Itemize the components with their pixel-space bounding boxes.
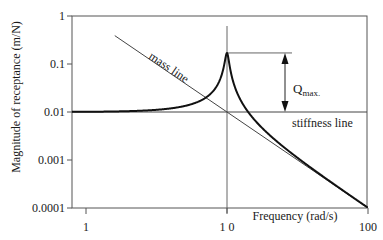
y-tick-label: 0.0001 (32, 201, 65, 215)
x-axis-title: Frequency (rad/s) (253, 209, 338, 223)
x-tick-label: 100 (359, 220, 377, 234)
y-tick-label: 0.01 (44, 105, 65, 119)
receptance-chart: 10.10.010.0010.0001 11 0100 mass line st… (0, 0, 383, 240)
q-arrow-down-head (282, 101, 289, 112)
q-subscript: max. (302, 88, 320, 98)
receptance-curve (72, 53, 367, 208)
annotations: mass line stiffness line Qmax. (146, 49, 352, 130)
reference-lines (227, 26, 292, 213)
y-tick-label: 0.001 (38, 153, 65, 167)
y-tick-label: 1 (59, 9, 65, 23)
y-axis-ticks: 10.10.010.0010.0001 (32, 9, 72, 215)
mass-line-label: mass line (146, 49, 191, 86)
q-max-label: Qmax. (293, 81, 320, 98)
y-axis-title: Magnitude of receptance (m/N) (9, 21, 23, 173)
y-tick-label: 0.1 (50, 57, 65, 71)
stiffness-line-label: stiffness line (292, 116, 353, 130)
x-tick-label: 1 (83, 220, 89, 234)
q-arrow-up-head (282, 53, 289, 64)
x-tick-label: 1 0 (220, 220, 235, 234)
